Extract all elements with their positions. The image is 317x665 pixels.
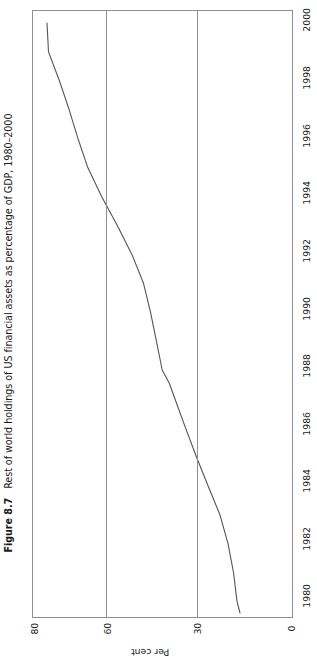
- year-tick-1992: 1992: [302, 241, 311, 263]
- year-tick-1994: 1994: [302, 183, 311, 205]
- year-tick-1986: 1986: [302, 414, 311, 436]
- year-tick-1988: 1988: [302, 356, 311, 378]
- year-tick-1980: 1980: [302, 586, 311, 608]
- series-path-rest-of-world-holdings: [47, 23, 240, 613]
- year-tick-1982: 1982: [302, 529, 311, 551]
- year-tick-1996: 1996: [302, 126, 311, 148]
- figure-number: Figure 8.7: [3, 497, 14, 552]
- chart-plot-area: [32, 10, 293, 618]
- gridline-30: [197, 11, 198, 617]
- gridline-60: [106, 11, 107, 617]
- value-tick-0: 0: [287, 621, 296, 637]
- value-tick-30: 30: [193, 621, 202, 637]
- year-tick-1990: 1990: [302, 299, 311, 321]
- value-axis-title: Per cent: [131, 648, 169, 657]
- year-tick-1998: 1998: [302, 68, 311, 90]
- year-tick-2000: 2000: [302, 10, 311, 32]
- figure-caption: Figure 8.7Rest of world holdings of US f…: [4, 113, 14, 552]
- value-tick-80: 80: [30, 621, 39, 637]
- figure-caption-text: Rest of world holdings of US financial a…: [3, 113, 14, 488]
- data-series-line: [33, 11, 294, 619]
- figure-caption-container: Figure 8.7Rest of world holdings of US f…: [0, 0, 18, 665]
- value-tick-60: 60: [103, 621, 112, 637]
- year-tick-1984: 1984: [302, 471, 311, 493]
